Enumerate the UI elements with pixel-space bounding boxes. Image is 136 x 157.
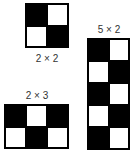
checkerboard-2x2 — [25, 3, 69, 48]
black-cell — [26, 4, 47, 26]
white-cell — [26, 26, 47, 48]
white-cell — [109, 127, 130, 149]
white-cell — [109, 39, 130, 61]
black-cell — [5, 105, 26, 127]
black-cell — [47, 26, 68, 48]
white-cell — [47, 4, 68, 26]
label-2x3: 2 × 3 — [12, 90, 62, 102]
checkerboard-2x3 — [4, 104, 69, 149]
white-cell — [26, 105, 47, 127]
white-cell — [88, 61, 109, 83]
black-cell — [109, 61, 130, 83]
black-cell — [88, 127, 109, 149]
black-cell — [109, 105, 130, 127]
white-cell — [5, 127, 26, 149]
white-cell — [109, 83, 130, 105]
white-cell — [47, 127, 68, 149]
black-cell — [88, 83, 109, 105]
checkerboard-5x2 — [87, 38, 130, 150]
black-cell — [26, 127, 47, 149]
black-cell — [88, 39, 109, 61]
label-2x2: 2 × 2 — [22, 53, 72, 65]
white-cell — [88, 105, 109, 127]
label-5x2: 5 × 2 — [84, 24, 134, 36]
black-cell — [47, 105, 68, 127]
